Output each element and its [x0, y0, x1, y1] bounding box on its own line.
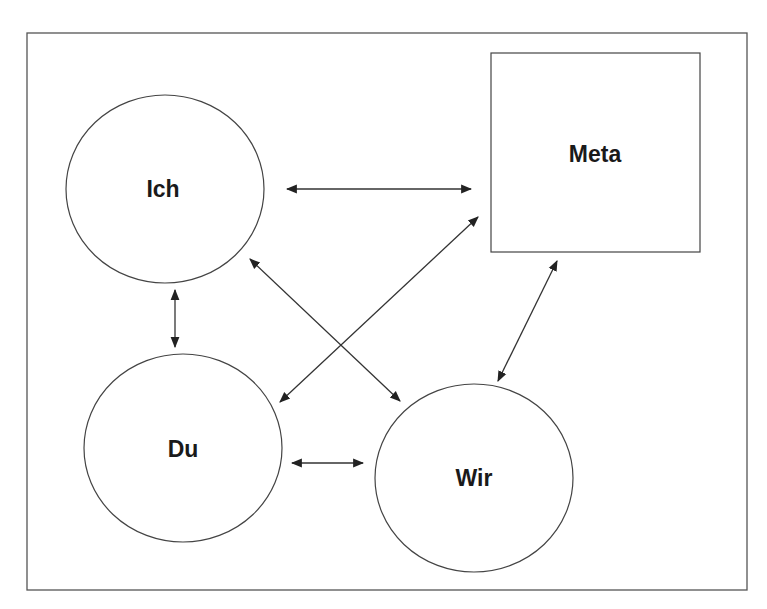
- arrow-du-meta: [280, 217, 478, 402]
- arrow-ich-wir: [250, 259, 400, 401]
- ich-label: Ich: [146, 176, 179, 202]
- wir-label: Wir: [456, 465, 493, 491]
- du-label: Du: [168, 436, 199, 462]
- node-wir: Wir: [375, 384, 573, 572]
- node-ich: Ich: [66, 95, 264, 283]
- meta-label: Meta: [569, 141, 622, 167]
- node-du: Du: [84, 354, 282, 542]
- node-meta: Meta: [491, 53, 700, 252]
- diagram-canvas: Ich Du Wir Meta: [0, 0, 767, 609]
- arrow-wir-meta: [498, 261, 557, 381]
